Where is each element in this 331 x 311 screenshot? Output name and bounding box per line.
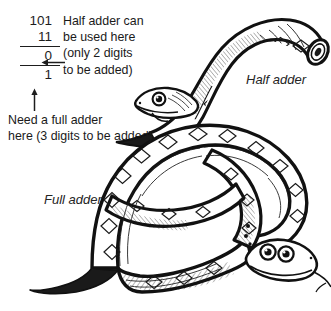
- addend-1: 101: [12, 13, 60, 29]
- full-adder-note-line-2: here (3 digits to be added): [8, 128, 153, 144]
- half-adder-note: Half adder can be used here (only 2 digi…: [63, 13, 144, 78]
- half-adder-note-line-1: Half adder can: [63, 13, 144, 29]
- half-adder-note-line-3: (only 2 digits: [63, 45, 144, 61]
- full-adder-note: Need a full adder here (3 digits to be a…: [8, 112, 153, 144]
- up-arrow-icon: [29, 88, 40, 112]
- figure-canvas: 101 11 0 1 Half adder can be used here (…: [0, 0, 331, 311]
- full-adder-snake: [30, 125, 331, 294]
- full-adder-head: [246, 240, 331, 292]
- sum-rule-top: [20, 46, 60, 47]
- half-adder-note-line-4: to be added): [63, 62, 144, 78]
- full-adder-label: Full adder: [44, 192, 102, 207]
- half-adder-label: Half adder: [246, 72, 306, 87]
- full-adder-note-line-1: Need a full adder: [8, 112, 153, 128]
- carry-digit: 1: [12, 67, 60, 83]
- addend-2: 11: [12, 29, 60, 45]
- half-adder-note-line-2: be used here: [63, 29, 144, 45]
- binary-addition-block: 101 11 0 1: [12, 13, 60, 83]
